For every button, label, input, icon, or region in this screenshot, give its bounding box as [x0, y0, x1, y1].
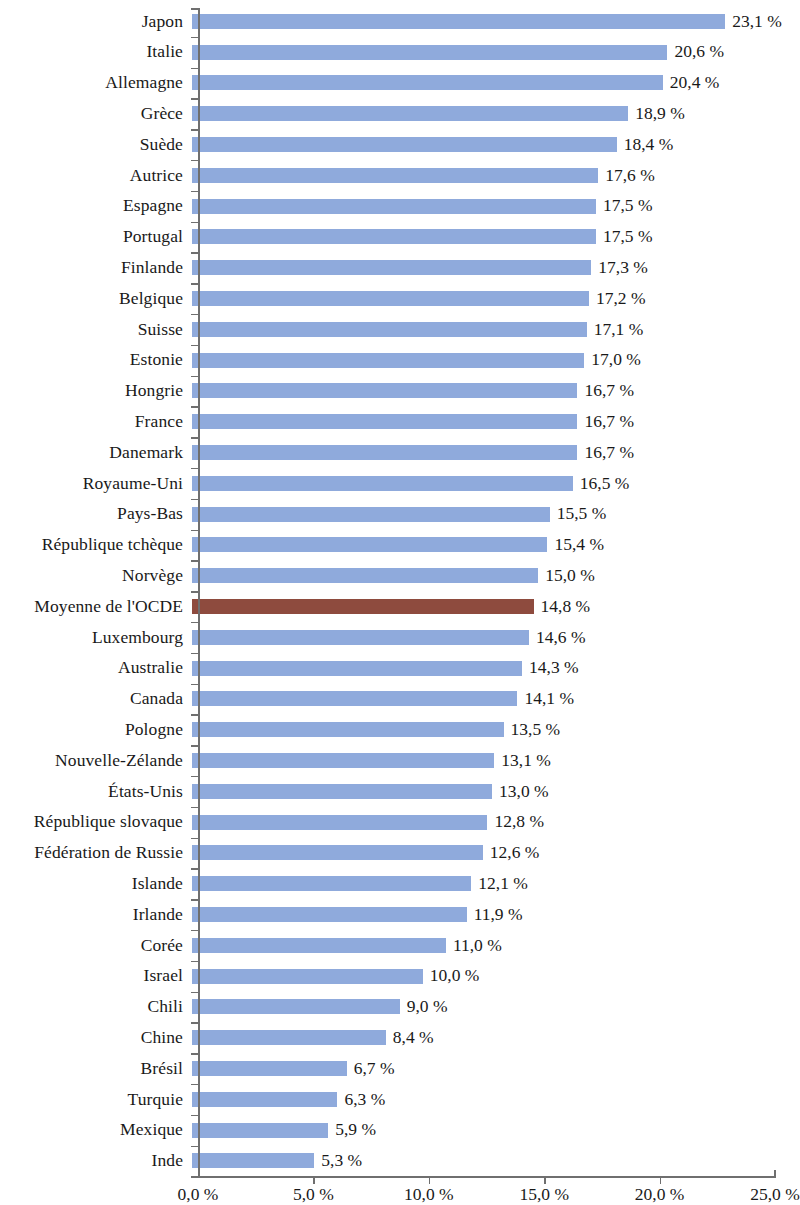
value-label: 11,0 %	[446, 937, 502, 955]
bar	[192, 1153, 314, 1168]
bar	[192, 1092, 337, 1107]
category-label: Turquie	[0, 1091, 192, 1109]
bar-track: 23,1 %	[192, 6, 789, 37]
category-label: Hongrie	[0, 382, 192, 400]
bar	[192, 784, 492, 799]
y-axis-tick	[191, 1146, 199, 1147]
bar-row: Inde5,3 %	[0, 1145, 789, 1176]
value-label: 11,9 %	[467, 906, 523, 924]
y-axis-tick	[191, 653, 199, 654]
category-label: Corée	[0, 937, 192, 955]
bar	[192, 353, 584, 368]
value-label: 17,5 %	[596, 228, 653, 246]
bar-row: Irlande11,9 %	[0, 899, 789, 930]
bar	[192, 969, 423, 984]
y-axis-tick	[191, 807, 199, 808]
bar-track: 15,4 %	[192, 530, 789, 561]
category-label: Brésil	[0, 1060, 192, 1078]
bar-row: Nouvelle-Zélande13,1 %	[0, 745, 789, 776]
x-axis-tick	[544, 1176, 545, 1184]
bar-track: 10,0 %	[192, 961, 789, 992]
value-label: 17,0 %	[584, 351, 641, 369]
bar	[192, 753, 494, 768]
bar-row: Royaume-Uni16,5 %	[0, 468, 789, 499]
category-label: Nouvelle-Zélande	[0, 752, 192, 770]
bar-row: Canada14,1 %	[0, 684, 789, 715]
bar-track: 16,7 %	[192, 406, 789, 437]
bar-track: 17,2 %	[192, 283, 789, 314]
y-axis-tick	[191, 191, 199, 192]
bar-row: Espagne17,5 %	[0, 191, 789, 222]
y-axis-tick	[191, 714, 199, 715]
bar-row: République slovaque12,8 %	[0, 807, 789, 838]
bar-track: 12,8 %	[192, 807, 789, 838]
y-axis-tick	[191, 1084, 199, 1085]
bar-row: Turquie6,3 %	[0, 1084, 789, 1115]
category-label: Israel	[0, 967, 192, 985]
value-label: 17,1 %	[587, 321, 644, 339]
value-label: 16,5 %	[573, 475, 630, 493]
category-label: Danemark	[0, 444, 192, 462]
bar-row: République tchèque15,4 %	[0, 530, 789, 561]
x-axis-tick-label: 20,0 %	[635, 1186, 685, 1204]
category-label: Royaume-Uni	[0, 475, 192, 493]
y-axis-tick	[191, 961, 199, 962]
x-axis-tick	[429, 1176, 430, 1184]
category-label: République tchèque	[0, 536, 192, 554]
bar-track: 13,5 %	[192, 714, 789, 745]
bar-track: 16,5 %	[192, 468, 789, 499]
bar-track: 18,9 %	[192, 98, 789, 129]
category-label: Islande	[0, 875, 192, 893]
bar-row: Hongrie16,7 %	[0, 376, 789, 407]
bar-row: Allemagne20,4 %	[0, 68, 789, 99]
bar-highlight	[192, 599, 534, 614]
bar	[192, 1061, 347, 1076]
bar-track: 17,0 %	[192, 345, 789, 376]
bar	[192, 260, 591, 275]
value-label: 6,7 %	[347, 1060, 395, 1078]
bar-row: Pologne13,5 %	[0, 714, 789, 745]
y-axis-tick	[191, 622, 199, 623]
bar-track: 14,1 %	[192, 684, 789, 715]
bar-row: Chine8,4 %	[0, 1022, 789, 1053]
y-axis-tick	[191, 468, 199, 469]
bar-track: 17,3 %	[192, 252, 789, 283]
bar-track: 9,0 %	[192, 992, 789, 1023]
value-label: 15,4 %	[547, 536, 604, 554]
y-axis-top-cap	[191, 8, 199, 10]
bar-row: États-Unis13,0 %	[0, 776, 789, 807]
category-label: Italie	[0, 43, 192, 61]
bar-track: 11,0 %	[192, 930, 789, 961]
bar-track: 17,1 %	[192, 314, 789, 345]
y-axis-tick	[191, 838, 199, 839]
bar-row: Italie20,6 %	[0, 37, 789, 68]
x-axis-right-cap	[774, 1170, 776, 1178]
x-axis-tick-label: 15,0 %	[519, 1186, 569, 1204]
bar-row: France16,7 %	[0, 406, 789, 437]
y-axis-tick	[191, 899, 199, 900]
bar	[192, 383, 577, 398]
bar	[192, 291, 589, 306]
bar-track: 14,8 %	[192, 591, 789, 622]
y-axis-tick	[191, 376, 199, 377]
bar	[192, 537, 547, 552]
value-label: 12,8 %	[487, 813, 544, 831]
bar-track: 20,6 %	[192, 37, 789, 68]
value-label: 6,3 %	[337, 1091, 385, 1109]
x-axis-tick-labels: 0,0 %5,0 %10,0 %15,0 %20,0 %25,0 %	[0, 1186, 789, 1205]
bar-row: Danemark16,7 %	[0, 437, 789, 468]
bar-track: 15,5 %	[192, 499, 789, 530]
bar	[192, 507, 550, 522]
bar	[192, 568, 538, 583]
bar	[192, 106, 628, 121]
value-label: 15,0 %	[538, 567, 595, 585]
bar	[192, 691, 517, 706]
value-label: 17,6 %	[598, 167, 655, 185]
x-axis-tick-label: 10,0 %	[404, 1186, 454, 1204]
value-label: 13,0 %	[492, 783, 549, 801]
x-axis-tick	[313, 1176, 314, 1184]
bar	[192, 476, 573, 491]
y-axis-tick	[191, 1053, 199, 1054]
y-axis-tick	[191, 283, 199, 284]
